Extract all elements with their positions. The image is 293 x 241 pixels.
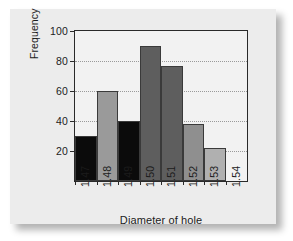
plot-inner: 20406080100 1.471.481.491.501.511.521.53… xyxy=(75,31,247,181)
x-axis-title: Diameter of hole xyxy=(74,214,248,226)
x-tick-1.47 xyxy=(75,181,76,185)
plot-area: 20406080100 1.471.481.491.501.511.521.53… xyxy=(74,30,248,182)
y-tick-label-60: 60 xyxy=(56,85,68,97)
bar-1.51 xyxy=(161,66,183,182)
y-tick-label-100: 100 xyxy=(50,25,68,37)
x-tick-1.48 xyxy=(97,181,98,185)
chart-card: Frequency 20406080100 1.471.481.491.501.… xyxy=(10,9,276,224)
x-tick-1.54 xyxy=(226,181,227,185)
y-tick-label-80: 80 xyxy=(56,55,68,67)
bar-series xyxy=(75,31,247,181)
y-tick-label-40: 40 xyxy=(56,115,68,127)
x-tick-label-1.49: 1.49 xyxy=(122,166,134,187)
x-tick-1.50 xyxy=(140,181,141,185)
x-tick-1.49 xyxy=(118,181,119,185)
x-tick-label-1.53: 1.53 xyxy=(208,166,220,187)
x-tick-label-1.48: 1.48 xyxy=(101,166,113,187)
figure: Frequency 20406080100 1.471.481.491.501.… xyxy=(0,0,293,241)
x-tick-1.52 xyxy=(183,181,184,185)
x-tick-label-1.52: 1.52 xyxy=(187,166,199,187)
x-tick-label-1.54: 1.54 xyxy=(230,166,242,187)
bar-1.50 xyxy=(140,46,162,181)
x-tick-1.53 xyxy=(204,181,205,185)
x-tick-1.51 xyxy=(161,181,162,185)
x-tick-label-1.50: 1.50 xyxy=(144,166,156,187)
y-tick-label-20: 20 xyxy=(56,145,68,157)
x-tick-label-1.51: 1.51 xyxy=(165,166,177,187)
x-tick-label-1.47: 1.47 xyxy=(79,166,91,187)
y-axis-title: Frequency xyxy=(28,45,40,59)
